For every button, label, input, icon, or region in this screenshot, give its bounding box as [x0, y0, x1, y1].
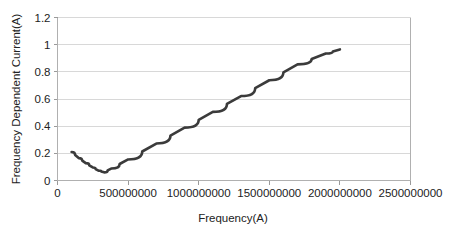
y-axis-tick-labels: 00.20.40.60.811.2 [35, 12, 52, 187]
x-tick-label: 1500000000 [237, 187, 301, 199]
chart-container: 00.20.40.60.811.2 0500000000100000000015… [0, 0, 457, 242]
y-tick-label: 1 [44, 39, 50, 51]
x-axis-title: Frequency(A) [198, 212, 268, 224]
y-tick-label: 0.4 [35, 120, 52, 132]
x-tick-label: 2000000000 [308, 187, 372, 199]
data-series [72, 49, 340, 172]
line-chart: 00.20.40.60.811.2 0500000000100000000015… [0, 0, 457, 242]
x-tick-label: 2500000000 [379, 187, 443, 199]
y-axis-title: Frequency Dependent Current(A) [10, 13, 22, 184]
x-axis-tick-labels: 0500000000100000000015000000002000000000… [54, 187, 442, 199]
x-tick-label: 500000000 [99, 187, 157, 199]
y-tick-label: 0 [44, 175, 50, 187]
y-tick-label: 0.8 [35, 66, 51, 78]
y-tick-label: 0.2 [35, 147, 51, 159]
x-tick-label: 0 [54, 187, 60, 199]
x-tick-label: 1000000000 [167, 187, 231, 199]
y-tick-label: 1.2 [35, 12, 51, 24]
y-tick-label: 0.6 [35, 93, 51, 105]
series-line-frequency-dependent-current [72, 49, 340, 172]
